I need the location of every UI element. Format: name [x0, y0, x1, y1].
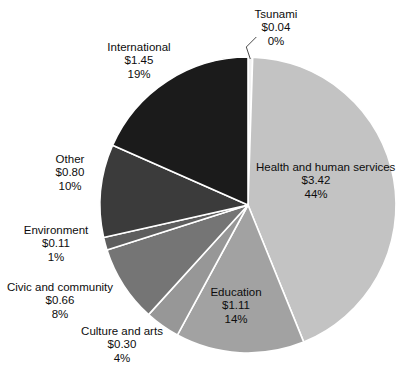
slice-label-value: $0.80 — [22, 166, 118, 179]
slice-label-percent: 44% — [256, 188, 376, 201]
slice-label-percent: 4% — [58, 352, 186, 365]
slice-label-value: $1.45 — [76, 54, 202, 67]
pie-chart: Tsunami $0.04 0% International $1.45 19%… — [0, 0, 402, 377]
slice-label-percent: 14% — [186, 313, 286, 326]
slice-label-percent: 8% — [0, 308, 120, 321]
slice-label-name: International — [76, 41, 202, 54]
slice-label-percent: 1% — [4, 251, 108, 264]
slice-label-education: Education $1.11 14% — [186, 286, 286, 326]
slice-label-value: $0.11 — [4, 237, 108, 250]
slice-label-value: $1.11 — [186, 299, 286, 312]
slice-label-value: $3.42 — [256, 174, 376, 187]
slice-label-other: Other $0.80 10% — [22, 153, 118, 193]
slice-label-value: $0.30 — [58, 338, 186, 351]
slice-label-value: $0.66 — [0, 294, 120, 307]
slice-label-name: Other — [22, 153, 118, 166]
slice-label-tsunami: Tsunami $0.04 0% — [228, 8, 324, 48]
slice-label-name: Environment — [4, 224, 108, 237]
slice-label-percent: 0% — [228, 35, 324, 48]
slice-label-name: Culture and arts — [58, 325, 186, 338]
slice-label-environment: Environment $0.11 1% — [4, 224, 108, 264]
slice-label-value: $0.04 — [228, 21, 324, 34]
slice-label-health-and-human-services: Health and human services $3.42 44% — [256, 161, 376, 201]
slice-label-name: Tsunami — [228, 8, 324, 21]
slice-label-international: International $1.45 19% — [76, 41, 202, 81]
slice-label-civic-and-community: Civic and community $0.66 8% — [0, 281, 120, 321]
slice-label-percent: 10% — [22, 180, 118, 193]
slice-label-name: Education — [186, 286, 286, 299]
slice-label-percent: 19% — [76, 68, 202, 81]
slice-label-name: Health and human services — [256, 161, 376, 174]
slice-label-name: Civic and community — [0, 281, 120, 294]
slice-label-culture-and-arts: Culture and arts $0.30 4% — [58, 325, 186, 365]
